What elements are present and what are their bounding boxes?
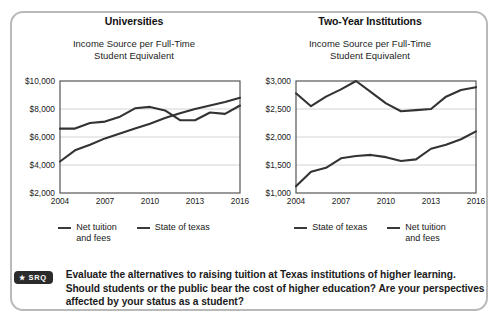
legend-label-line2: and fees <box>76 233 111 243</box>
legend-item: Net tuition and fees <box>387 222 446 244</box>
legend-label-line1: State of texas <box>155 222 210 232</box>
srq-row: ★ SRQ Evaluate the alternatives to raisi… <box>12 268 486 309</box>
y-axis-tick-label: $8,000 <box>30 104 56 114</box>
legend-item-label: State of texas <box>312 222 367 233</box>
x-axis-tick-label: 2016 <box>231 196 250 206</box>
charts-container: Universities Income Source per Full-Time… <box>0 0 499 262</box>
legend-item: State of texas <box>137 222 210 244</box>
plot-svg-two-year-institutions: $1,000$1,500$2,000$2,500$3,0002004200720… <box>254 76 486 214</box>
chart-panel-two-year-institutions: Two-Year Institutions Income Source per … <box>254 14 486 260</box>
plot-svg-universities: $2,000$4,000$6,000$8,000$10,000200420072… <box>18 76 250 214</box>
x-axis-tick-label: 2016 <box>467 196 486 206</box>
chart-subtitle-line2: Student Equivalent <box>94 50 174 61</box>
legend-item-label: State of texas <box>155 222 210 233</box>
x-axis-tick-label: 2010 <box>377 196 396 206</box>
legend-item-label: Net tuition and fees <box>76 222 117 244</box>
chart-title-two-year-institutions: Two-Year Institutions <box>254 14 486 27</box>
srq-badge-label: SRQ <box>29 273 47 282</box>
chart-subtitle-line2: Student Equivalent <box>330 50 410 61</box>
legend-label-line2: and fees <box>405 233 440 243</box>
x-axis-tick-label: 2013 <box>422 196 441 206</box>
x-axis-tick-label: 2007 <box>332 196 351 206</box>
star-icon: ★ <box>19 274 26 281</box>
chart-subtitle-line1: Income Source per Full-Time <box>309 38 431 49</box>
y-axis-tick-label: $3,000 <box>266 76 292 86</box>
legend-line-swatch-icon <box>387 227 400 229</box>
y-axis-tick-label: $10,000 <box>25 76 55 86</box>
legend-item: State of texas <box>294 222 367 244</box>
chart-title-universities: Universities <box>18 14 250 27</box>
series-line <box>296 81 476 111</box>
x-axis-tick-label: 2013 <box>186 196 205 206</box>
x-axis-tick-label: 2010 <box>141 196 160 206</box>
plot-two-year-institutions: $1,000$1,500$2,000$2,500$3,0002004200720… <box>254 76 486 214</box>
legend-line-swatch-icon <box>137 227 150 229</box>
legend-label-line1: Net tuition <box>405 222 446 232</box>
chart-subtitle-two-year-institutions: Income Source per Full-Time Student Equi… <box>254 27 486 62</box>
x-axis-tick-label: 2004 <box>287 196 306 206</box>
chart-panel-universities: Universities Income Source per Full-Time… <box>18 14 250 260</box>
legend-item: Net tuition and fees <box>58 222 117 244</box>
legend-universities: Net tuition and fees State of texas <box>18 222 250 244</box>
figure-root: Universities Income Source per Full-Time… <box>0 0 499 323</box>
x-axis-tick-label: 2004 <box>51 196 70 206</box>
legend-line-swatch-icon <box>294 227 307 229</box>
chart-subtitle-universities: Income Source per Full-Time Student Equi… <box>18 27 250 62</box>
series-line <box>296 131 476 186</box>
y-axis-tick-label: $4,000 <box>30 160 56 170</box>
legend-line-swatch-icon <box>58 227 71 229</box>
y-axis-tick-label: $2,000 <box>266 132 292 142</box>
y-axis-tick-label: $2,500 <box>266 104 292 114</box>
legend-label-line1: State of texas <box>312 222 367 232</box>
legend-label-line1: Net tuition <box>76 222 117 232</box>
legend-two-year-institutions: State of texas Net tuition and fees <box>254 222 486 244</box>
legend-item-label: Net tuition and fees <box>405 222 446 244</box>
y-axis-tick-label: $6,000 <box>30 132 56 142</box>
y-axis-tick-label: $1,500 <box>266 160 292 170</box>
plot-universities: $2,000$4,000$6,000$8,000$10,000200420072… <box>18 76 250 214</box>
srq-prompt-text: Evaluate the alternatives to raising tui… <box>66 268 486 309</box>
x-axis-tick-label: 2007 <box>96 196 115 206</box>
srq-badge: ★ SRQ <box>14 271 53 284</box>
chart-subtitle-line1: Income Source per Full-Time <box>73 38 195 49</box>
